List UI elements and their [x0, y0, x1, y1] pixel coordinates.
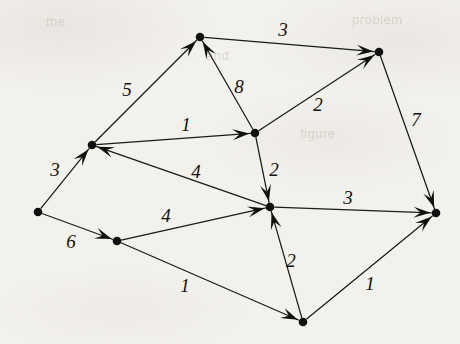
edge-weight-label: 1	[181, 114, 191, 135]
graph-edge	[380, 56, 434, 209]
edge-weight-label: 6	[66, 231, 76, 252]
graph-edge	[96, 146, 266, 205]
edge-weight-label: 2	[286, 250, 296, 271]
graph-figure: problemandfigurethe 358271342364121	[0, 0, 460, 344]
edge-weight-label: 2	[313, 94, 323, 115]
edge-weight-label: 7	[411, 109, 422, 130]
graph-edge	[274, 207, 431, 213]
graph-edge	[42, 213, 113, 239]
graph-node	[113, 237, 122, 246]
arrowhead-icon	[203, 42, 216, 59]
edge-weight-label: 1	[365, 273, 375, 294]
graph-node	[375, 48, 384, 57]
edge-weight-label: 3	[342, 187, 353, 208]
graph-node	[196, 33, 205, 42]
graph-node	[34, 208, 43, 217]
graph-edge	[259, 54, 376, 130]
edge-weight-label: 1	[180, 275, 190, 296]
graph-edge	[41, 148, 90, 208]
edge-weight-label: 2	[269, 159, 279, 180]
graph-edge	[121, 208, 266, 240]
graph-node	[88, 141, 97, 150]
edge-weight-label: 5	[122, 79, 132, 100]
graph-edge	[121, 243, 299, 321]
graph-canvas: 358271342364121	[0, 0, 460, 344]
graph-node	[266, 203, 275, 212]
graph-edge	[204, 37, 374, 51]
edge-weight-label: 4	[161, 205, 171, 226]
graph-edge	[96, 133, 250, 144]
graph-node	[299, 318, 308, 327]
edge-weight-label: 4	[191, 161, 201, 182]
arrowhead-icon	[357, 55, 374, 69]
edge-weight-label: 3	[49, 159, 60, 180]
edge-weight-label: 8	[234, 76, 244, 97]
graph-node	[251, 129, 260, 138]
graph-edge	[202, 41, 253, 130]
edge-weight-label: 3	[277, 19, 288, 40]
graph-node	[432, 209, 441, 218]
graph-edge	[306, 216, 432, 320]
